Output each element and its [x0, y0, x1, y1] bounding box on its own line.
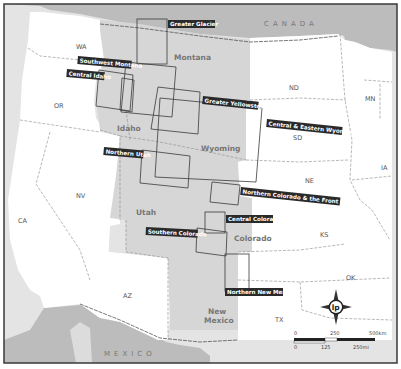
label-sd: SD: [293, 134, 302, 142]
svg-text:Central Colorado: Central Colorado: [228, 216, 281, 222]
label-ok: OK: [346, 274, 356, 282]
label-or: OR: [54, 102, 64, 110]
label-ca: CA: [18, 217, 28, 225]
label-colorado: Colorado: [234, 234, 272, 243]
scale-mi-125: 125: [321, 344, 331, 350]
label-wa: WA: [76, 43, 87, 51]
label-nd: ND: [289, 84, 299, 92]
label-nv: NV: [76, 192, 86, 200]
svg-text:Northern New Mexico: Northern New Mexico: [227, 289, 295, 295]
label-utah: Utah: [136, 208, 156, 217]
regional-map: WA OR CA NV AZ Idaho Montana Wyoming Uta…: [0, 0, 401, 369]
scale-km-0: 0: [294, 330, 297, 336]
region-label-greater-glacier[interactable]: Greater Glacier: [168, 20, 218, 28]
region-label-central-colorado[interactable]: Central Colorado: [226, 215, 281, 223]
label-new-mexico-1: New: [208, 307, 226, 316]
scale-km-500: 500km: [369, 330, 386, 336]
label-montana: Montana: [174, 53, 211, 62]
label-idaho: Idaho: [117, 124, 141, 133]
label-ks: KS: [320, 231, 328, 239]
label-az: AZ: [123, 292, 132, 300]
label-ia: IA: [381, 164, 388, 172]
label-canada: CANADA: [264, 20, 318, 28]
label-mexico: MEXICO: [104, 350, 156, 358]
region-label-northern-new-mexico[interactable]: Northern New Mexico: [225, 288, 295, 296]
scale-mi-250: 250mi: [353, 344, 369, 350]
label-mn: MN: [365, 95, 376, 103]
label-tx: TX: [274, 316, 284, 324]
label-new-mexico-2: Mexico: [204, 316, 234, 325]
label-ne: NE: [305, 177, 314, 185]
svg-text:Greater Glacier: Greater Glacier: [170, 21, 218, 27]
lp-logo: lp: [332, 303, 341, 312]
scale-km-250: 250: [330, 330, 340, 336]
scale-mi-0: 0: [294, 344, 297, 350]
label-wyoming: Wyoming: [201, 144, 240, 153]
